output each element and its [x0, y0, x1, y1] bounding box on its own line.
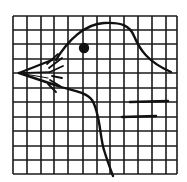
eye-icon [79, 43, 89, 53]
beak-lower [19, 73, 52, 84]
figure-svg [0, 0, 187, 182]
grid [13, 16, 177, 174]
beak-line [19, 72, 50, 73]
grid-stroke [122, 116, 156, 117]
grid-stroke [130, 101, 168, 102]
bird-grid-figure [0, 0, 187, 182]
beak-upper [19, 60, 52, 73]
feather-stroke [50, 66, 63, 72]
